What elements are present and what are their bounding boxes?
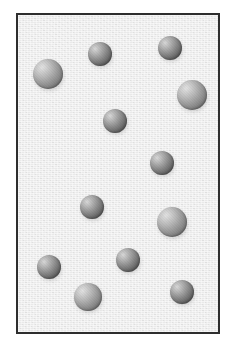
particle-body [74, 283, 102, 311]
particle-sphere [177, 80, 207, 110]
particle-grain [150, 151, 174, 175]
particle-sphere [116, 248, 140, 272]
particle-grain [116, 248, 140, 272]
particle-sphere [88, 42, 112, 66]
particle-body [37, 255, 61, 279]
particle-body [158, 36, 182, 60]
particle-sphere [157, 207, 187, 237]
particle-sphere [158, 36, 182, 60]
particle-body [157, 207, 187, 237]
particle-sphere [37, 255, 61, 279]
particle-grain [157, 207, 187, 237]
particle-body [33, 59, 63, 89]
particle-grain [170, 280, 194, 304]
particle-grain [177, 80, 207, 110]
particle-sphere [150, 151, 174, 175]
particle-sphere [74, 283, 102, 311]
particle-grain [158, 36, 182, 60]
particle-body [80, 195, 104, 219]
particle-body [177, 80, 207, 110]
particle-sphere [33, 59, 63, 89]
particle-body [103, 109, 127, 133]
particle-body [116, 248, 140, 272]
particle-grain [88, 42, 112, 66]
particle-grain [74, 283, 102, 311]
particle-grain [37, 255, 61, 279]
particle-container [16, 13, 220, 334]
particle-sphere [103, 109, 127, 133]
particle-grain [33, 59, 63, 89]
particle-grain [103, 109, 127, 133]
particle-body [170, 280, 194, 304]
particle-sphere [170, 280, 194, 304]
particle-sphere [80, 195, 104, 219]
figure-root [0, 0, 235, 352]
particle-body [88, 42, 112, 66]
particle-body [150, 151, 174, 175]
particle-grain [80, 195, 104, 219]
